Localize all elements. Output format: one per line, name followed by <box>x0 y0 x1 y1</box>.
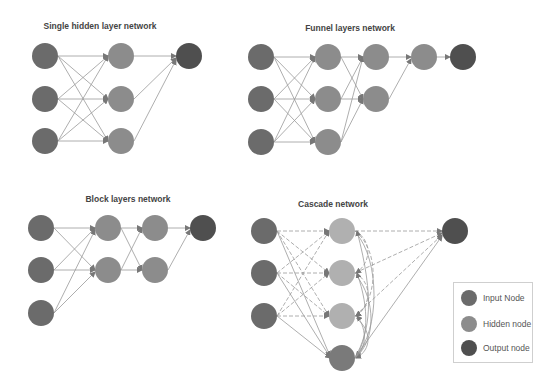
input-node-swatch-icon <box>461 290 477 306</box>
hidden-node <box>315 129 341 155</box>
hidden-node <box>411 44 437 70</box>
single-hidden-layer-nodes <box>32 43 202 154</box>
input-node <box>251 260 277 286</box>
input-node <box>28 257 54 283</box>
hidden-node <box>95 215 121 241</box>
output-node <box>442 218 468 244</box>
input-node <box>248 129 274 155</box>
input-node <box>32 43 58 69</box>
legend-item-input: Input Node <box>461 290 525 306</box>
input-node <box>251 218 277 244</box>
hidden-node <box>315 44 341 70</box>
hidden-node <box>329 218 355 244</box>
output-node-swatch-icon <box>461 340 477 356</box>
input-node <box>28 215 54 241</box>
legend-label: Output node <box>483 343 530 353</box>
legend-label: Input Node <box>483 293 525 303</box>
cascade-network-solid-edges <box>277 231 442 358</box>
input-node <box>251 303 277 329</box>
hidden-node <box>363 86 389 112</box>
block-layers-network <box>54 228 190 313</box>
input-node <box>28 300 54 326</box>
hidden-node <box>142 257 168 283</box>
legend: Input Node Hidden node Output node <box>453 282 533 363</box>
legend-label: Hidden node <box>483 319 531 329</box>
hidden-node <box>108 128 134 154</box>
output-node <box>450 44 476 70</box>
hidden-node <box>95 257 121 283</box>
legend-item-hidden: Hidden node <box>461 316 531 332</box>
hidden-node <box>329 260 355 286</box>
hidden-node <box>315 86 341 112</box>
input-node <box>32 128 58 154</box>
hidden-node <box>142 215 168 241</box>
legend-item-output: Output node <box>461 340 530 356</box>
hidden-node <box>329 303 355 329</box>
output-node <box>176 43 202 69</box>
output-node <box>190 215 216 241</box>
hidden-node <box>363 44 389 70</box>
input-node <box>248 44 274 70</box>
input-node <box>248 86 274 112</box>
hidden-node <box>108 43 134 69</box>
hidden-node <box>329 345 355 371</box>
hidden-node <box>108 86 134 112</box>
hidden-node-swatch-icon <box>461 316 477 332</box>
input-node <box>32 86 58 112</box>
cascade-network-dashed-edges <box>277 231 442 316</box>
